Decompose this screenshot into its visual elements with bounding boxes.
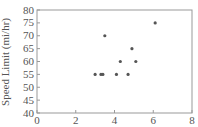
y-tick-label: 40	[23, 107, 35, 119]
data-point	[154, 21, 157, 24]
data-point	[101, 73, 104, 76]
data-point	[126, 73, 129, 76]
x-tick-label: 4	[112, 114, 118, 126]
y-tick-label: 60	[23, 55, 35, 67]
y-tick-label: 55	[23, 68, 35, 80]
data-point	[103, 34, 106, 37]
data-point	[115, 73, 118, 76]
data-point	[134, 60, 137, 63]
y-tick-label: 80	[23, 4, 35, 16]
data-point	[94, 73, 97, 76]
plot-area: 40455055606570758002468	[23, 4, 195, 127]
x-tick-label: 0	[34, 114, 40, 126]
x-tick-label: 8	[189, 114, 195, 126]
data-point	[130, 47, 133, 50]
y-tick-label: 45	[23, 94, 35, 106]
scatter-chart: 40455055606570758002468 Speed Limit (mi/…	[0, 0, 198, 126]
y-tick-label: 65	[23, 42, 35, 54]
plot-frame	[37, 10, 192, 113]
y-tick-label: 50	[23, 81, 35, 93]
y-tick-label: 70	[23, 29, 35, 41]
x-tick-label: 2	[73, 114, 79, 126]
y-tick-label: 75	[23, 16, 35, 28]
chart-svg: 40455055606570758002468 Speed Limit (mi/…	[0, 0, 198, 126]
x-tick-label: 6	[151, 114, 157, 126]
y-axis-label: Speed Limit (mi/hr)	[0, 18, 12, 106]
data-point	[119, 60, 122, 63]
